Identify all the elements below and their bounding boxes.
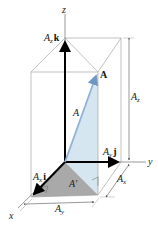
dim-Ay-label: Ay — [54, 203, 65, 216]
dim-Az-label: Az — [130, 91, 140, 104]
z-axis-label: z — [61, 4, 66, 15]
diagram-svg: z y x Azk Ayj Axi A A A′ Az Ax Ay — [0, 0, 158, 228]
Az-label: Azk — [43, 32, 60, 45]
dim-Ax-label: Ax — [116, 173, 127, 186]
vector-A-label: A — [100, 69, 108, 80]
y-axis-label: y — [147, 156, 153, 167]
magnitude-A-label: A — [72, 107, 80, 118]
x-axis-label: x — [8, 210, 14, 221]
Ay-label: Ayj — [102, 146, 117, 159]
A-prime-label: A′ — [68, 178, 78, 189]
vector-components-diagram: z y x Azk Ayj Axi A A A′ Az Ax Ay — [0, 0, 158, 228]
